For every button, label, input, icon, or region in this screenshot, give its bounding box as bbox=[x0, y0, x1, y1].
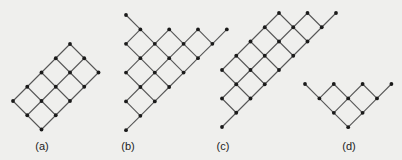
diagram-a-lattice bbox=[11, 42, 100, 131]
diagram-canvas bbox=[0, 0, 402, 160]
lattice-edge bbox=[363, 84, 377, 98]
lattice-edge bbox=[42, 73, 56, 87]
diagram-c-lattice bbox=[220, 11, 338, 129]
lattice-node bbox=[124, 100, 128, 104]
diagram-b-label: (b) bbox=[121, 140, 134, 152]
lattice-node bbox=[40, 71, 44, 75]
lattice-edge bbox=[140, 87, 154, 101]
lattice-node bbox=[68, 99, 72, 103]
lattice-edge bbox=[27, 101, 41, 115]
lattice-edge bbox=[265, 70, 279, 84]
lattice-node bbox=[25, 85, 29, 89]
lattice-edge bbox=[169, 73, 183, 87]
diagram-b-lattice bbox=[124, 13, 229, 132]
lattice-node bbox=[318, 97, 322, 101]
lattice-edge bbox=[236, 56, 250, 70]
lattice-edge bbox=[13, 101, 27, 115]
lattice-edge bbox=[126, 87, 140, 101]
lattice-node bbox=[139, 56, 143, 60]
lattice-edge bbox=[184, 44, 198, 58]
lattice-edge bbox=[70, 87, 84, 101]
lattice-node bbox=[320, 25, 324, 29]
lattice-edge bbox=[265, 13, 279, 27]
lattice-edge bbox=[251, 56, 265, 70]
lattice-edge bbox=[251, 84, 265, 98]
lattice-edge bbox=[377, 84, 391, 98]
lattice-edge bbox=[56, 73, 70, 87]
lattice-node bbox=[139, 85, 143, 89]
lattice-node bbox=[54, 56, 58, 60]
lattice-node bbox=[220, 68, 224, 72]
lattice-edge bbox=[279, 56, 293, 70]
lattice-edge bbox=[184, 29, 198, 43]
lattice-node bbox=[277, 40, 281, 44]
lattice-node bbox=[375, 97, 379, 101]
lattice-node bbox=[196, 56, 200, 60]
lattice-edge bbox=[84, 73, 98, 87]
lattice-edge bbox=[279, 27, 293, 41]
lattice-node bbox=[82, 85, 86, 89]
diagram-d-label: (d) bbox=[342, 140, 355, 152]
lattice-edge bbox=[265, 27, 279, 41]
lattice-edge bbox=[319, 98, 333, 112]
lattice-edge bbox=[212, 29, 226, 43]
lattice-node bbox=[306, 40, 310, 44]
lattice-edge bbox=[184, 58, 198, 72]
lattice-edge bbox=[348, 113, 362, 127]
lattice-edge bbox=[348, 84, 362, 98]
lattice-edge bbox=[70, 58, 84, 72]
lattice-node bbox=[40, 128, 44, 132]
lattice-edge bbox=[279, 42, 293, 56]
lattice-edge bbox=[155, 87, 169, 101]
lattice-node bbox=[11, 99, 15, 103]
lattice-node bbox=[182, 71, 186, 75]
lattice-node bbox=[196, 28, 200, 32]
lattice-node bbox=[153, 71, 157, 75]
lattice-edge bbox=[155, 44, 169, 58]
lattice-node bbox=[361, 111, 365, 115]
lattice-edge bbox=[222, 56, 236, 70]
lattice-edge bbox=[27, 87, 41, 101]
lattice-edge bbox=[13, 87, 27, 101]
lattice-node bbox=[277, 68, 281, 72]
lattice-edge bbox=[169, 29, 183, 43]
diagram-a-label: (a) bbox=[35, 140, 48, 152]
lattice-node bbox=[249, 68, 253, 72]
lattice-node bbox=[291, 54, 295, 58]
lattice-edge bbox=[126, 15, 140, 29]
lattice-edge bbox=[56, 87, 70, 101]
lattice-node bbox=[303, 82, 307, 86]
lattice-node bbox=[291, 25, 295, 29]
lattice-node bbox=[167, 28, 171, 32]
lattice-edge bbox=[155, 29, 169, 43]
lattice-edge bbox=[305, 84, 319, 98]
lattice-edge bbox=[236, 84, 250, 98]
lattice-edge bbox=[236, 99, 250, 113]
lattice-edge bbox=[222, 70, 236, 84]
lattice-node bbox=[124, 13, 128, 17]
lattice-node bbox=[153, 100, 157, 104]
lattice-edge bbox=[236, 70, 250, 84]
lattice-edge bbox=[155, 73, 169, 87]
lattice-node bbox=[182, 42, 186, 46]
lattice-edge bbox=[293, 27, 307, 41]
lattice-node bbox=[211, 42, 215, 46]
lattice-edge bbox=[265, 42, 279, 56]
lattice-edge bbox=[334, 98, 348, 112]
lattice-edge bbox=[155, 58, 169, 72]
lattice-node bbox=[263, 82, 267, 86]
lattice-node bbox=[390, 82, 394, 86]
lattice-node bbox=[124, 71, 128, 75]
lattice-node bbox=[25, 113, 29, 117]
lattice-edge bbox=[222, 84, 236, 98]
lattice-edge bbox=[319, 84, 333, 98]
lattice-edge bbox=[222, 99, 236, 113]
lattice-node bbox=[225, 28, 229, 32]
lattice-edge bbox=[308, 27, 322, 41]
lattice-node bbox=[153, 42, 157, 46]
lattice-node bbox=[234, 82, 238, 86]
lattice-edge bbox=[140, 101, 154, 115]
lattice-edge bbox=[140, 58, 154, 72]
lattice-edge bbox=[140, 44, 154, 58]
lattice-edge bbox=[27, 73, 41, 87]
